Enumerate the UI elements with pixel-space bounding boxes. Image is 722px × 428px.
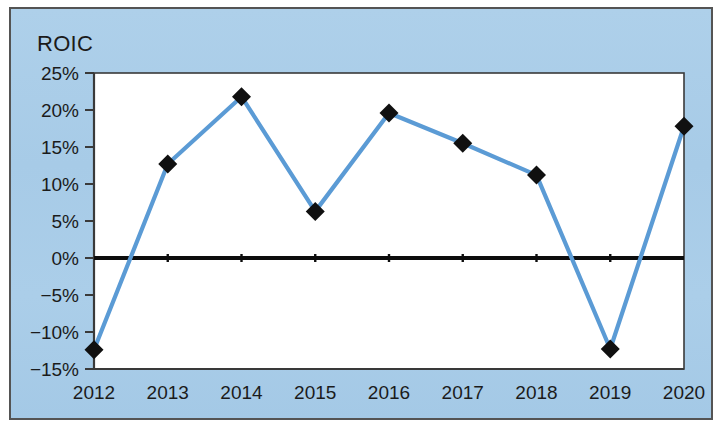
x-axis-tick-label: 2015 xyxy=(294,382,336,403)
y-axis-tick-label: 25% xyxy=(41,63,79,84)
line-chart-plot: 25%20%15%10%5%0%−5%−10%−15% 201220132014… xyxy=(11,9,713,420)
chart-frame: ROIC 25%20%15%10%5%0%−5%−10%−15% 2012201… xyxy=(9,7,713,420)
y-axis-tick-label: −5% xyxy=(40,285,79,306)
x-axis-tick-label: 2017 xyxy=(442,382,484,403)
y-axis-ticks xyxy=(85,73,94,369)
x-axis-tick-label: 2013 xyxy=(147,382,189,403)
x-axis-tick-label: 2019 xyxy=(589,382,631,403)
figure-root: ROIC 25%20%15%10%5%0%−5%−10%−15% 2012201… xyxy=(0,0,722,428)
y-axis-tick-label: 20% xyxy=(41,100,79,121)
x-axis-tick-labels: 201220132014201520162017201820192020 xyxy=(73,382,705,403)
y-axis-tick-label: −10% xyxy=(30,322,79,343)
y-axis-tick-labels: 25%20%15%10%5%0%−5%−10%−15% xyxy=(30,63,79,380)
x-axis-tick-label: 2020 xyxy=(663,382,705,403)
y-axis-tick-label: −15% xyxy=(30,359,79,380)
y-axis-tick-label: 5% xyxy=(52,211,80,232)
x-axis-tick-label: 2012 xyxy=(73,382,115,403)
x-axis-tick-label: 2018 xyxy=(515,382,557,403)
x-axis-tick-label: 2016 xyxy=(368,382,410,403)
x-axis-tick-label: 2014 xyxy=(220,382,263,403)
y-axis-tick-label: 15% xyxy=(41,137,79,158)
y-axis-tick-label: 10% xyxy=(41,174,79,195)
y-axis-tick-label: 0% xyxy=(52,248,80,269)
